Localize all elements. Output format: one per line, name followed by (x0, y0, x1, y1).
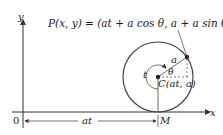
radius-label: a (171, 55, 177, 65)
origin-label: 0 (13, 116, 19, 126)
point-p (185, 55, 189, 59)
y-axis-label: y (18, 12, 24, 22)
rotation-label: t (143, 70, 147, 80)
distance-label: at (82, 116, 92, 126)
x-axis-label: x (210, 108, 216, 118)
leader-line (178, 30, 187, 57)
center-label: C(at, a) (158, 79, 196, 89)
contact-point-label: M (160, 116, 170, 126)
point-formula: P(x, y) = (at + a cos θ, a + a sin θ) (48, 18, 223, 29)
cycloid-diagram: y x 0 P(x, y) = (at + a cos θ, a + a sin… (0, 0, 223, 135)
angle-label: θ (168, 68, 173, 77)
